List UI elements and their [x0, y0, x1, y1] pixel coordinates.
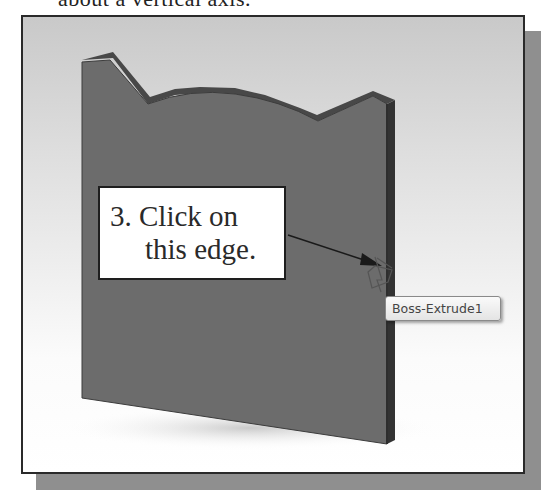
- callout-line-2: this edge.: [110, 233, 284, 266]
- callout-line-1: 3. Click on: [110, 200, 238, 232]
- instruction-callout: 3. Click on this edge.: [98, 186, 286, 280]
- feature-tooltip: Boss-Extrude1: [385, 296, 501, 321]
